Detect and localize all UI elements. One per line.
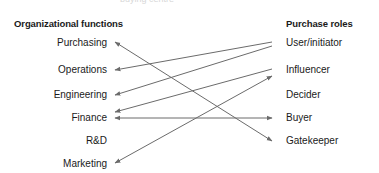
clipped-top-text-region: buying centre	[0, 0, 379, 8]
left-node-rd: R&D	[86, 135, 107, 147]
left-node-finance: Finance	[71, 112, 107, 124]
right-node-gatekeeper: Gatekeeper	[286, 135, 338, 147]
right-node-decider: Decider	[286, 89, 320, 101]
buying-center-diagram: buying centre Organizational functions P…	[0, 0, 379, 173]
connector-user_initiator-to-operations	[115, 42, 272, 70]
connector-influencer-to-finance	[115, 69, 272, 112]
clipped-top-text: buying centre	[120, 0, 174, 4]
right-node-influencer: Influencer	[286, 64, 330, 76]
left-node-engineering: Engineering	[54, 89, 107, 101]
left-column-heading: Organizational functions	[14, 18, 123, 29]
right-node-user_initiator: User/initiator	[286, 37, 342, 49]
connector-lines	[115, 42, 272, 163]
connector-user_initiator-to-engineering	[115, 46, 272, 95]
right-node-buyer: Buyer	[286, 112, 312, 124]
left-node-purchasing: Purchasing	[57, 37, 107, 49]
connector-marketing-to-influencer	[115, 76, 272, 163]
connector-purchasing-to-gatekeeper	[115, 42, 272, 141]
left-node-operations: Operations	[58, 64, 107, 76]
left-node-marketing: Marketing	[63, 158, 107, 170]
right-column-heading: Purchase roles	[286, 18, 353, 29]
